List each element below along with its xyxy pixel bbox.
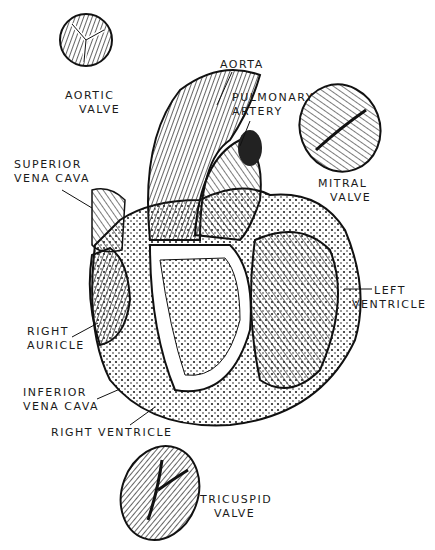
label-line: VENTRICLE	[352, 298, 427, 312]
label-line: VENA CAVA	[14, 172, 90, 186]
label-line: PULMONARY	[232, 91, 314, 105]
label-line: LEFT	[352, 284, 427, 298]
label-tricuspid-valve: TRICUSPID VALVE	[200, 493, 272, 521]
label-aorta: AORTA	[220, 58, 264, 72]
label-superior-vena-cava: SUPERIOR VENA CAVA	[14, 158, 90, 186]
label-inferior-vena-cava: INFERIOR VENA CAVA	[23, 386, 99, 414]
label-line: AURICLE	[27, 339, 85, 353]
label-line: TRICUSPID	[200, 493, 272, 507]
heart-illustration	[0, 0, 435, 550]
label-line: RIGHT	[27, 325, 85, 339]
label-line: AORTIC	[65, 89, 120, 103]
label-left-ventricle: LEFT VENTRICLE	[352, 284, 427, 312]
label-right-auricle: RIGHT AURICLE	[27, 325, 85, 353]
mitral-valve-drawing	[287, 73, 392, 183]
label-line: ARTERY	[232, 105, 314, 119]
label-line: VALVE	[200, 507, 272, 521]
label-line: VENA CAVA	[23, 400, 99, 414]
label-line: VALVE	[65, 103, 120, 117]
label-line: MITRAL	[318, 177, 371, 191]
label-line: VALVE	[318, 191, 371, 205]
label-pulmonary-artery: PULMONARY ARTERY	[232, 91, 314, 119]
label-aortic-valve: AORTIC VALVE	[65, 89, 120, 117]
aortic-valve-drawing	[60, 14, 112, 66]
tricuspid-valve-drawing	[108, 435, 212, 550]
label-line: SUPERIOR	[14, 158, 90, 172]
label-mitral-valve: MITRAL VALVE	[318, 177, 371, 205]
label-line: INFERIOR	[23, 386, 99, 400]
label-right-ventricle: RIGHT VENTRICLE	[51, 426, 172, 440]
